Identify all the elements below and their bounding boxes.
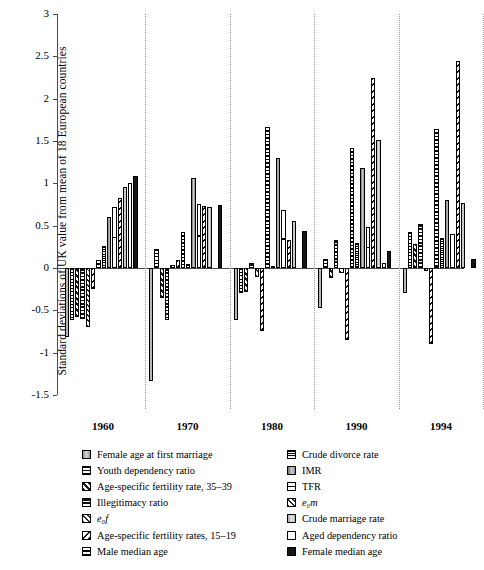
y-tick (53, 99, 57, 100)
legend-item[interactable]: Youth dependency ratio (82, 462, 287, 478)
y-tick (53, 14, 57, 15)
legend-swatch-icon (82, 514, 91, 523)
legend-item[interactable]: Crude divorce rate (287, 446, 457, 462)
bar (287, 240, 291, 268)
legend-swatch-icon (287, 514, 296, 523)
legend-item[interactable]: Aged dependency ratio (287, 527, 457, 543)
y-tick-label: 3 (0, 7, 49, 19)
x-tick-label: 1970 (158, 420, 218, 432)
bar (165, 268, 169, 320)
bar (355, 243, 359, 268)
bar (323, 259, 327, 268)
y-tick (53, 226, 57, 227)
bar (434, 129, 438, 268)
bar (403, 268, 407, 293)
bar (329, 268, 333, 278)
bar (102, 246, 106, 268)
x-tick-label: 1960 (73, 420, 133, 432)
y-tick (53, 56, 57, 57)
bar (123, 187, 127, 268)
bar (271, 266, 275, 268)
bar (450, 234, 454, 268)
y-tick (53, 268, 57, 269)
bar (202, 206, 206, 268)
bar (160, 268, 164, 298)
y-tick-label: 1.5 (0, 134, 49, 146)
legend-item[interactable]: TFR (287, 478, 457, 494)
bar (96, 260, 100, 268)
bar (281, 210, 285, 268)
y-tick (53, 183, 57, 184)
bar (413, 244, 417, 268)
bar (339, 268, 343, 273)
bar (445, 200, 449, 268)
legend-item-label: Illegitimacy ratio (97, 497, 168, 508)
legend-item-label: Crude marriage rate (302, 513, 384, 524)
legend-item-label: TFR (302, 481, 321, 492)
bar (360, 168, 364, 268)
bar (244, 268, 248, 292)
bar (107, 217, 111, 268)
bar (170, 265, 174, 268)
bar (334, 240, 338, 268)
bar (86, 268, 90, 327)
legend-column-left: Female age at first marriageYouth depend… (82, 446, 287, 559)
bar (350, 148, 354, 268)
bar (75, 268, 79, 317)
bar (456, 61, 460, 268)
legend-item[interactable]: IMR (287, 462, 457, 478)
legend-item[interactable]: Female age at first marriage (82, 446, 287, 462)
legend-swatch-icon (287, 482, 296, 491)
legend-item[interactable]: e₀f (82, 511, 287, 527)
y-tick (53, 395, 57, 396)
legend-item[interactable]: Female median age (287, 543, 457, 559)
group-separator (230, 14, 231, 409)
bar (371, 78, 375, 268)
legend-item-label: e₀f (97, 513, 108, 524)
y-tick-label: 1 (0, 176, 49, 188)
bar (408, 232, 412, 268)
bar (366, 227, 370, 268)
legend-swatch-icon (82, 466, 91, 475)
bar (429, 268, 433, 344)
legend-item[interactable]: Crude marriage rate (287, 511, 457, 527)
bar (239, 268, 243, 293)
bar (91, 268, 95, 289)
y-tick-label: 0.5 (0, 219, 49, 231)
legend-item-label: Crude divorce rate (302, 449, 379, 460)
legend-swatch-icon (287, 498, 296, 507)
bar (128, 183, 132, 268)
legend-swatch-icon (287, 450, 296, 459)
y-axis-line (57, 14, 58, 395)
y-tick-label: 2.5 (0, 49, 49, 61)
bar (382, 263, 386, 268)
bar (302, 231, 306, 268)
legend-item[interactable]: Male median age (82, 543, 287, 559)
legend-item[interactable]: e₀m (287, 495, 457, 511)
legend-swatch-icon (82, 547, 91, 556)
y-tick (53, 353, 57, 354)
legend-swatch-icon (82, 482, 91, 491)
y-tick-label: -1.5 (0, 388, 49, 400)
legend-item[interactable]: Illegitimacy ratio (82, 495, 287, 511)
legend-swatch-icon (287, 466, 296, 475)
bar (424, 268, 428, 271)
bar (471, 259, 475, 268)
bar (118, 198, 122, 268)
x-tick-label: 1994 (411, 420, 471, 432)
bar (276, 158, 280, 268)
legend-item-label: Age-specific fertility rates, 15–19 (97, 530, 236, 541)
legend-item-label: Female median age (302, 546, 382, 557)
y-tick-label: -0.5 (0, 303, 49, 315)
bar (181, 232, 185, 268)
y-tick (53, 310, 57, 311)
bar (197, 204, 201, 268)
legend-item[interactable]: Age-specific fertility rate, 35–39 (82, 478, 287, 494)
legend-item[interactable]: Age-specific fertility rates, 15–19 (82, 527, 287, 543)
legend-item-label: Age-specific fertility rate, 35–39 (97, 481, 232, 492)
bar (265, 127, 269, 268)
bar (260, 268, 264, 331)
y-tick-label: 2 (0, 92, 49, 104)
y-tick-label: 0 (0, 261, 49, 273)
x-tick-label: 1980 (242, 420, 302, 432)
